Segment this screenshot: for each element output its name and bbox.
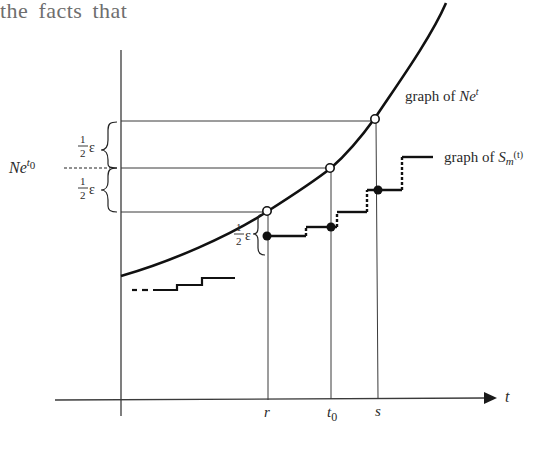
svg-text:ε: ε — [89, 140, 95, 155]
curve-point-s — [371, 115, 379, 123]
step-function-left — [132, 278, 235, 290]
svg-text:ε: ε — [89, 182, 95, 197]
brace-lower — [101, 168, 117, 212]
tick-label-t0: t0 — [327, 404, 337, 424]
horizontal-axis — [55, 398, 485, 400]
tick-label-r: r — [264, 404, 270, 420]
level-label-Ne-t0: Net0 — [8, 156, 36, 176]
svg-text:1: 1 — [80, 133, 86, 145]
tick-label-s: s — [375, 403, 381, 419]
half-epsilon-lower: 1 2 ε — [78, 175, 95, 201]
exponential-approximation-diagram: 1 2 ε 1 2 ε 1 2 ε Net0 graph of Net grap… — [0, 0, 559, 449]
x-axis-label: t — [505, 388, 510, 405]
svg-text:2: 2 — [80, 147, 86, 159]
axis-arrow-icon — [484, 392, 497, 404]
brace-upper — [101, 122, 117, 168]
curve-label: graph of Net — [405, 86, 479, 104]
drop-line-s — [376, 122, 378, 398]
svg-text:2: 2 — [236, 235, 242, 247]
step-point-t0 — [327, 223, 336, 232]
step-point-r — [263, 232, 272, 241]
step-label: graph of Sm(t) — [444, 149, 523, 167]
svg-text:2: 2 — [80, 189, 86, 201]
svg-text:ε: ε — [245, 228, 251, 243]
svg-text:1: 1 — [236, 221, 242, 233]
curve-point-r — [263, 207, 271, 215]
svg-text:1: 1 — [80, 175, 86, 187]
curve-point-t0 — [326, 164, 334, 172]
step-point-s — [374, 186, 383, 195]
half-epsilon-upper: 1 2 ε — [78, 133, 95, 159]
